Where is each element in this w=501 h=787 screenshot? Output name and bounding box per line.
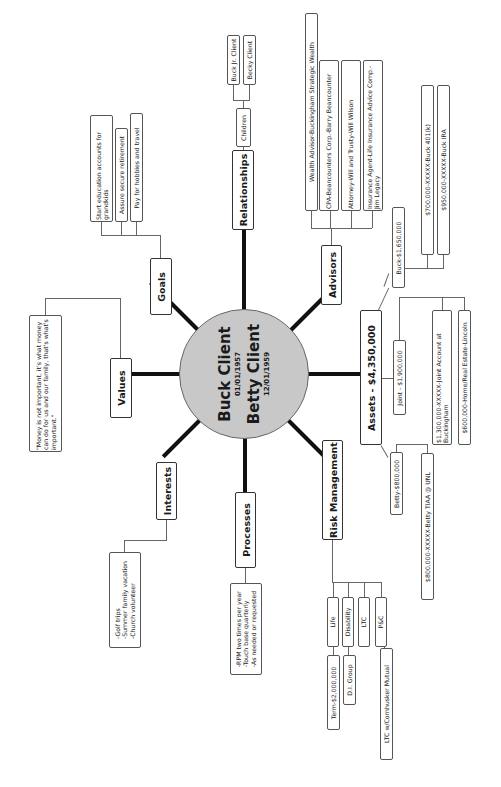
asset-item-text: $1,300,000-XXXXX-Joint Account at Buckin… [435, 313, 450, 443]
child-item[interactable]: Becky Client [243, 35, 256, 85]
risk-sub-text: D.I. Group [346, 664, 353, 695]
risk-sub-text: LTC w/Cornhusker Mutual [383, 665, 390, 743]
asset-item[interactable]: $800,000-XXXXX-Betty TIAA @ UNL [421, 453, 434, 600]
connector [427, 444, 428, 453]
connector [330, 211, 331, 228]
asset-item-text: $700,000-XXXXX-Buck 401(k) [424, 124, 431, 216]
child-name: Buck Jr. Client [230, 39, 237, 82]
risk-item-disability[interactable]: Disability [342, 597, 354, 647]
connector [348, 647, 349, 655]
asset-item[interactable]: $950,000-XXXXX-Buck IRA [437, 85, 450, 255]
connector [427, 255, 428, 268]
spoke-interests [162, 419, 202, 459]
processes-label: Processes [240, 503, 251, 557]
child-item[interactable]: Buck Jr. Client [227, 35, 240, 85]
connector [399, 297, 400, 340]
advisor-item[interactable]: Insurance Agent-Life Insurance Advice Co… [363, 60, 383, 211]
connector [311, 211, 312, 228]
goal-item-text: Pay for hobbies and travel [133, 127, 140, 208]
interests-node[interactable]: Interests [156, 462, 177, 520]
advisors-label: Advisors [326, 252, 337, 298]
interests-list: -Golf trips -Summer family vacation -Chu… [114, 561, 136, 639]
goal-item-text: Assure secure retirement [118, 136, 125, 214]
advisor-item[interactable]: CPA-Beancounters Corp.-Barry Beancounter [319, 60, 339, 211]
risk-sub-item[interactable]: LTC w/Cornhusker Mutual [380, 648, 393, 760]
assets-label: Assets - $4,350,000 [366, 325, 377, 431]
connector [348, 582, 349, 597]
process-item: -Touch base quarterly [242, 591, 249, 667]
person2-name: Betty Client [246, 324, 263, 424]
child-name: Becky Client [246, 41, 253, 79]
values-quote[interactable]: "Money is not important, it's what money… [29, 315, 62, 452]
risk-item-label: LTC [360, 617, 367, 627]
relationships-node[interactable]: Relationships [232, 150, 254, 230]
advisor-text: Wealth Advisor-Buckingham Strategic Weal… [308, 42, 315, 182]
assets-betty-node[interactable]: Betty-$800,000 [390, 452, 403, 515]
assets-betty-label: Betty-$800,000 [393, 459, 400, 507]
assets-node[interactable]: Assets - $4,350,000 [360, 310, 382, 445]
risk-sub-item[interactable]: D.I. Group [343, 655, 356, 705]
connector [382, 378, 393, 379]
advisors-node[interactable]: Advisors [321, 245, 342, 305]
risk-item-pc[interactable]: P&C [375, 597, 387, 647]
values-node[interactable]: Values [110, 358, 132, 418]
risk-item-label: P&C [377, 616, 384, 629]
connector [333, 582, 334, 597]
connector [332, 540, 333, 582]
advisor-item[interactable]: Attorney-Will and Trusty-Will Wilson [341, 60, 361, 211]
assets-buck-node[interactable]: Buck-$1,650,000 [392, 207, 405, 288]
connector [160, 235, 161, 258]
risk-item-ltc[interactable]: LTC [358, 597, 370, 647]
risk-management-label: Risk Management [327, 442, 338, 538]
advisor-item[interactable]: Wealth Advisor-Buckingham Strategic Weal… [305, 13, 318, 211]
goal-item-text: Start education accounts for grandkids [94, 118, 109, 220]
children-label: Children [240, 115, 247, 141]
risk-management-node[interactable]: Risk Management [322, 440, 343, 540]
assets-joint-label: Joint - $1,900,000 [396, 350, 403, 405]
relationships-label: Relationships [238, 154, 249, 227]
connector [45, 298, 46, 315]
connector [101, 235, 161, 236]
processes-node[interactable]: Processes [235, 492, 256, 568]
spoke-assets [308, 372, 360, 376]
connector [124, 540, 125, 552]
spoke-processes [243, 438, 247, 492]
center-label: Buck Client 01/01/1957 Betty Client 12/0… [217, 324, 272, 424]
connector [136, 222, 137, 235]
interests-details[interactable]: -Golf trips -Summer family vacation -Chu… [109, 552, 141, 648]
asset-item[interactable]: $700,000-XXXXX-Buck 401(k) [421, 85, 434, 255]
asset-item[interactable]: $600,000-Home/Real Estate-Lincoln [458, 310, 471, 445]
connector [245, 568, 246, 583]
connector [443, 255, 444, 268]
advisor-text: Attorney-Will and Trusty-Will Wilson [347, 63, 354, 209]
connector [311, 228, 372, 229]
assets-joint-node[interactable]: Joint - $1,900,000 [393, 340, 406, 415]
goal-item[interactable]: Pay for hobbies and travel [130, 113, 143, 222]
connector [381, 445, 389, 458]
goal-item[interactable]: Assure secure retirement [115, 128, 128, 222]
goal-item[interactable]: Start education accounts for grandkids [90, 115, 113, 222]
person1-dob: 01/01/1957 [234, 324, 243, 424]
connector [351, 211, 352, 228]
connector [233, 100, 250, 101]
connector [101, 222, 102, 235]
risk-sub-item[interactable]: Term-$2,000,000 [327, 655, 340, 730]
connector [442, 297, 443, 310]
connector [121, 222, 122, 235]
goals-node[interactable]: Goals [150, 258, 172, 315]
center-node[interactable]: Buck Client 01/01/1957 Betty Client 12/0… [179, 309, 309, 439]
processes-list: -RPM two times per year -Touch base quar… [235, 591, 257, 667]
assets-buck-label: Buck-$1,650,000 [395, 221, 402, 274]
person1-name: Buck Client [217, 324, 234, 424]
risk-item-life[interactable]: Life [327, 597, 339, 647]
interest-item: -Church volunteer [129, 561, 136, 639]
asset-item[interactable]: $1,300,000-XXXXX-Joint Account at Buckin… [432, 310, 452, 445]
spoke-relationships [242, 230, 246, 310]
connector [427, 268, 444, 269]
connector [464, 297, 465, 310]
risk-item-label: Life [329, 616, 336, 627]
goals-label: Goals [156, 272, 167, 302]
children-node[interactable]: Children [236, 108, 251, 147]
processes-details[interactable]: -RPM two times per year -Touch base quar… [230, 583, 262, 675]
connector [166, 520, 167, 540]
